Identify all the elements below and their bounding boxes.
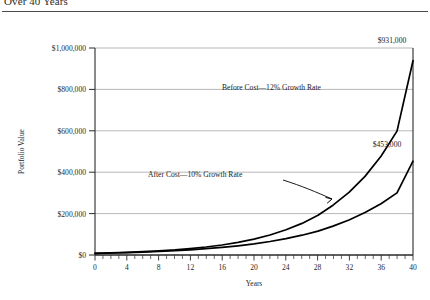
- x-tick-label: 16: [218, 263, 226, 272]
- portfolio-growth-chart: $1,000,000 $800,000 $600,000 $400,000 $2…: [0, 0, 430, 300]
- x-tick-label: 28: [314, 263, 322, 272]
- y-tick-label: $400,000: [58, 168, 87, 177]
- x-tick-label: 0: [93, 263, 97, 272]
- x-tick-label: 40: [409, 263, 417, 272]
- y-tick-label: $200,000: [58, 210, 87, 219]
- y-tick-label: $1,000,000: [52, 44, 86, 53]
- annotation-after-cost: After Cost—10% Growth Rate: [148, 170, 243, 179]
- x-tick-label: 20: [250, 263, 258, 272]
- value-label-before-cost: $931,000: [378, 36, 407, 45]
- y-tick-label: $800,000: [58, 85, 87, 94]
- x-tick-label: 8: [157, 263, 161, 272]
- y-tick-label: $0: [78, 251, 86, 260]
- axis-lines: [95, 48, 413, 255]
- annotation-leader-arrow: [283, 180, 332, 203]
- x-tick-label: 32: [346, 263, 354, 272]
- x-tick-labels: 0 4 8 12 16 20 24 28 32 36 40: [93, 263, 417, 272]
- x-axis-title: Years: [246, 279, 263, 288]
- y-tick-label: $600,000: [58, 127, 87, 136]
- y-axis-title: Portfolio Value: [17, 128, 26, 174]
- gridlines: [95, 48, 413, 214]
- y-tick-marks: [89, 48, 95, 255]
- x-tick-label: 4: [125, 263, 129, 272]
- x-tick-label: 36: [377, 263, 385, 272]
- chart-figure: Over 40 Years $1,000,000: [0, 0, 430, 300]
- y-tick-labels: $1,000,000 $800,000 $600,000 $400,000 $2…: [52, 44, 86, 260]
- x-tick-label: 24: [282, 263, 290, 272]
- value-label-after-cost: $453,000: [373, 140, 402, 149]
- x-tick-label: 12: [187, 263, 195, 272]
- annotation-before-cost: Before Cost—12% Growth Rate: [222, 83, 322, 92]
